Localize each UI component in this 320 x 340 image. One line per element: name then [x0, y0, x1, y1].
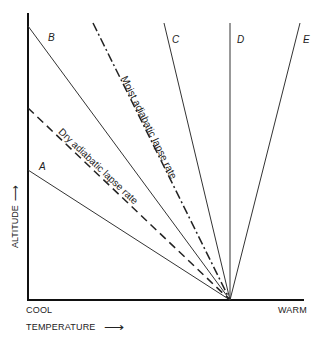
right-arrow-icon: ⟶: [104, 323, 124, 332]
dry-adiabatic-line: [28, 108, 230, 300]
line-e: [230, 23, 300, 300]
temperature-text: TEMPERATURE: [26, 322, 96, 332]
label-c: C: [172, 34, 179, 45]
label-d: D: [237, 34, 244, 45]
altitude-label: ALTITUDE: [10, 205, 20, 248]
label-e: E: [303, 34, 310, 45]
warm-label: WARM: [278, 305, 307, 315]
label-a: A: [39, 161, 46, 172]
line-c: [164, 23, 230, 300]
cool-label: COOL: [26, 305, 52, 315]
line-b: [28, 26, 230, 300]
up-arrow-icon: ⟶: [11, 185, 20, 201]
label-b: B: [48, 32, 55, 43]
temperature-label: TEMPERATURE ⟶: [26, 322, 124, 332]
lapse-rate-diagram: [0, 0, 320, 340]
